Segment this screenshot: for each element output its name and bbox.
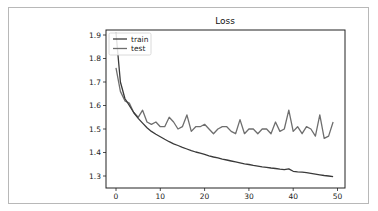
- legend-test-label: test: [131, 44, 145, 53]
- x-tick-label: 50: [333, 192, 343, 201]
- y-tick-label: 1.4: [89, 148, 101, 157]
- y-tick-label: 1.9: [89, 31, 101, 40]
- chart-title: Loss: [215, 16, 235, 26]
- x-tick-label: 40: [288, 192, 298, 201]
- plot-axes: 010203040501.31.41.51.61.71.81.9: [89, 30, 345, 201]
- x-tick-label: 30: [244, 192, 254, 201]
- y-tick-label: 1.5: [89, 125, 101, 134]
- x-tick-label: 10: [156, 192, 166, 201]
- y-tick-label: 1.8: [89, 54, 101, 63]
- legend-train-label: train: [131, 35, 149, 44]
- y-tick-label: 1.7: [89, 78, 101, 87]
- y-tick-label: 1.3: [89, 172, 101, 181]
- series-line-test: [116, 68, 333, 138]
- x-tick-label: 20: [200, 192, 210, 201]
- legend: train test: [109, 33, 151, 55]
- x-tick-label: 0: [114, 192, 119, 201]
- y-tick-label: 1.6: [89, 101, 101, 110]
- loss-chart: Loss 010203040501.31.41.51.61.71.81.9 tr…: [0, 0, 378, 211]
